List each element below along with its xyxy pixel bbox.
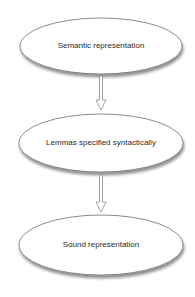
- arrow-1-to-2: [96, 76, 106, 110]
- node-semantic-representation: Semantic representation: [20, 18, 182, 74]
- flowchart-canvas: Semantic representation Lemmas specified…: [0, 0, 195, 297]
- node-label: Lemmas specified syntactically: [46, 138, 156, 147]
- node-label: Semantic representation: [58, 41, 145, 50]
- node-lemmas-specified-syntactically: Lemmas specified syntactically: [19, 114, 183, 172]
- down-arrow-icon: [96, 76, 106, 110]
- arrow-2-to-3: [96, 175, 106, 212]
- down-arrow-icon: [96, 175, 106, 212]
- node-sound-representation: Sound representation: [19, 215, 183, 275]
- node-label: Sound representation: [63, 240, 140, 249]
